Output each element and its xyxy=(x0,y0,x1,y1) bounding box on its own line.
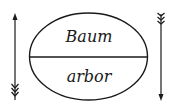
sign-diagram xyxy=(0,0,175,109)
signifier-label: arbor xyxy=(39,67,139,86)
signified-label: Baum xyxy=(39,27,139,46)
up-arrow-icon xyxy=(12,13,19,100)
down-arrow-icon xyxy=(158,13,165,101)
